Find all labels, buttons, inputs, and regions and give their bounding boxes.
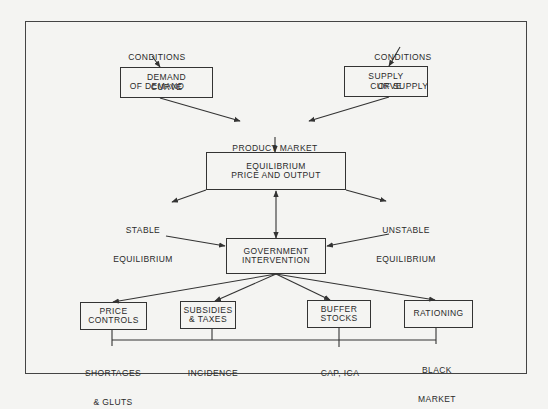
equilibrium-box: EQUILIBRIUM PRICE AND OUTPUT (206, 152, 346, 190)
label-line: EQUILIBRIUM (376, 255, 436, 265)
label-line: CAP, ICA (321, 369, 359, 379)
box-line: CURVE (147, 83, 186, 93)
stable-equilibrium-label: STABLE EQUILIBRIUM (113, 207, 173, 274)
box-line: PRICE AND OUTPUT (231, 171, 321, 181)
label-line: SHORTAGES (85, 369, 141, 379)
label-line: EQUILIBRIUM (113, 255, 173, 265)
buffer-stocks-box: BUFFER STOCKS (307, 300, 371, 328)
rationing-box: RATIONING (404, 300, 473, 328)
subsidies-taxes-box: SUBSIDIES & TAXES (180, 301, 236, 329)
label-line: CONDITIONS (374, 53, 431, 63)
government-intervention-box: GOVERNMENT INTERVENTION (226, 238, 326, 274)
supply-curve-box: SUPPLY CURVE (344, 66, 428, 97)
label-line: & GLUTS (85, 398, 141, 408)
box-line: STOCKS (320, 314, 357, 324)
label-line: BLACK (418, 366, 456, 376)
label-line: MARKET (418, 395, 456, 405)
label-line: UNSTABLE (376, 226, 436, 236)
cap-ica-label: CAP, ICA (321, 350, 359, 388)
price-controls-box: PRICE CONTROLS (80, 302, 147, 330)
black-market-label: BLACK MARKET (418, 347, 456, 409)
box-line: RATIONING (413, 309, 463, 319)
box-line: CONTROLS (88, 316, 138, 326)
incidence-label: INCIDENCE (188, 350, 238, 388)
unstable-equilibrium-label: UNSTABLE EQUILIBRIUM (376, 207, 436, 274)
box-line: CURVE (368, 82, 403, 92)
box-line: & TAXES (184, 315, 233, 325)
shortages-gluts-label: SHORTAGES & GLUTS (85, 350, 141, 409)
label-line: STABLE (113, 226, 173, 236)
label-line: CONDITIONS (128, 53, 185, 63)
label-line: INCIDENCE (188, 369, 238, 379)
box-line: INTERVENTION (242, 256, 310, 266)
demand-curve-box: DEMAND CURVE (120, 67, 213, 98)
